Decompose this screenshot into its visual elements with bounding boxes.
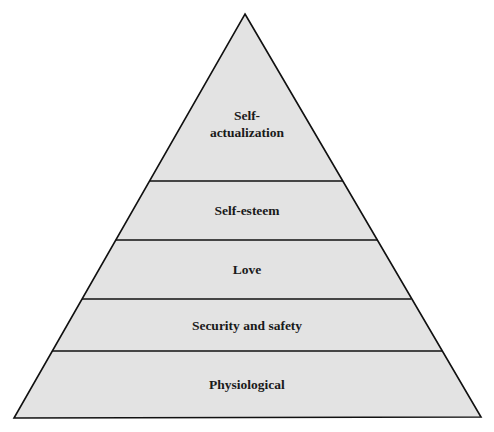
pyramid-diagram: Self- actualization Self-esteem Love Sec… — [0, 0, 494, 432]
level-physiological: Physiological — [209, 377, 285, 392]
level-label: actualization — [210, 125, 285, 140]
level-security-and-safety: Security and safety — [192, 318, 302, 333]
level-self-esteem: Self-esteem — [214, 203, 280, 218]
level-love: Love — [233, 262, 262, 277]
level-label: Self- — [234, 108, 260, 123]
